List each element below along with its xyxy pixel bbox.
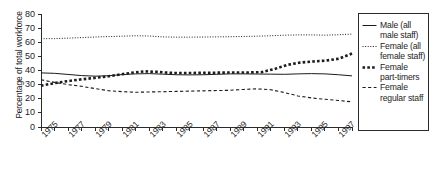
legend-item[interactable]: Female part-timers bbox=[362, 62, 426, 83]
legend-item[interactable]: Female regular staff bbox=[362, 82, 426, 103]
y-axis-tick-label: 30 bbox=[15, 80, 35, 89]
legend-item[interactable]: Female (all female staff) bbox=[362, 41, 426, 62]
legend-item-label: Female (all female staff) bbox=[380, 41, 426, 62]
plot-svg bbox=[41, 14, 352, 127]
series-line bbox=[41, 80, 352, 102]
legend-line-swatch-icon bbox=[362, 82, 377, 93]
legend-item-label: Female regular staff bbox=[380, 82, 426, 103]
y-axis-tick-label: 0 bbox=[15, 123, 35, 132]
legend-box: Male (all male staff)Female (all female … bbox=[358, 13, 429, 131]
y-axis-tick-label: 50 bbox=[15, 52, 35, 61]
y-axis-tick-label: 20 bbox=[15, 94, 35, 103]
plot-area bbox=[41, 14, 352, 127]
series-line bbox=[41, 73, 352, 76]
legend-line-swatch-icon bbox=[362, 41, 377, 52]
series-line bbox=[41, 54, 352, 86]
legend-line-swatch-icon bbox=[362, 20, 377, 31]
y-axis-tick-label: 40 bbox=[15, 66, 35, 75]
legend-item-label: Female part-timers bbox=[380, 62, 426, 83]
y-axis-tick-label: 70 bbox=[15, 24, 35, 33]
y-axis-tick-label: 80 bbox=[15, 10, 35, 19]
y-axis-tick-label: 60 bbox=[15, 38, 35, 47]
series-line bbox=[41, 34, 352, 39]
line-chart: Percentage of total workforce 0102030405… bbox=[0, 0, 431, 185]
legend-line-swatch-icon bbox=[362, 62, 377, 73]
y-axis-tick-label: 10 bbox=[15, 108, 35, 117]
legend-item-label: Male (all male staff) bbox=[380, 20, 426, 41]
legend-item[interactable]: Male (all male staff) bbox=[362, 20, 426, 41]
